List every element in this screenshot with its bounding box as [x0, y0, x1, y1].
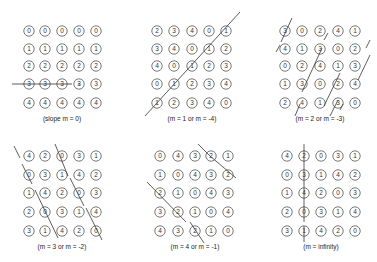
grid-cell: 4 — [57, 98, 67, 108]
svg-text:0: 0 — [77, 27, 81, 34]
svg-text:3: 3 — [60, 208, 64, 215]
grid-cell: 4 — [350, 79, 360, 89]
svg-text:2: 2 — [353, 45, 357, 52]
caption-slope-infinity: (m = infinity) — [303, 243, 339, 250]
svg-text:4: 4 — [43, 189, 47, 196]
svg-text:1: 1 — [336, 62, 340, 69]
grid-cell: 4 — [40, 188, 50, 198]
grid-cell: 4 — [57, 226, 67, 236]
grid-cell: 2 — [91, 170, 101, 180]
svg-text:3: 3 — [226, 189, 230, 196]
grid-cell: 0 — [350, 98, 360, 108]
svg-text:3: 3 — [172, 27, 176, 34]
svg-text:3: 3 — [209, 171, 213, 178]
grid-cell: 4 — [91, 98, 101, 108]
svg-text:2: 2 — [285, 208, 289, 215]
grid-cell: 2 — [24, 61, 34, 71]
svg-text:2: 2 — [319, 189, 323, 196]
grid-cell: 0 — [74, 26, 84, 36]
grid-cell: 2 — [173, 207, 183, 217]
svg-text:4: 4 — [283, 45, 287, 52]
grid-cell: 4 — [24, 151, 34, 161]
svg-text:4: 4 — [94, 99, 98, 106]
grid-cell: 2 — [40, 61, 50, 71]
svg-text:2: 2 — [60, 62, 64, 69]
svg-text:2: 2 — [336, 80, 340, 87]
svg-text:1: 1 — [77, 208, 81, 215]
svg-text:1: 1 — [209, 227, 213, 234]
svg-text:4: 4 — [336, 27, 340, 34]
svg-text:4: 4 — [60, 99, 64, 106]
slope-line — [70, 178, 84, 206]
grid-cell: 1 — [350, 26, 360, 36]
grid-cell: 0 — [187, 44, 197, 54]
slope-line — [340, 104, 343, 110]
svg-text:2: 2 — [155, 27, 159, 34]
grid-cell: 3 — [280, 26, 290, 36]
svg-text:1: 1 — [60, 45, 64, 52]
grid-cell: 1 — [40, 226, 50, 236]
grid-cell: 3 — [40, 170, 50, 180]
grid-cell: 0 — [91, 26, 101, 36]
grid-cell: 1 — [187, 61, 197, 71]
grid-cell: 0 — [350, 226, 360, 236]
grid-cell: 4 — [297, 98, 307, 108]
grid-cell: 0 — [280, 61, 290, 71]
grid-cell: 2 — [91, 61, 101, 71]
svg-text:0: 0 — [318, 80, 322, 87]
grid-cell: 0 — [333, 188, 343, 198]
grid-cell: 1 — [24, 44, 34, 54]
grid-cell: 3 — [187, 98, 197, 108]
svg-text:3: 3 — [193, 152, 197, 159]
grid-cell: 2 — [333, 226, 343, 236]
slope-line — [276, 45, 280, 52]
svg-text:2: 2 — [77, 62, 81, 69]
svg-text:0: 0 — [353, 99, 357, 106]
svg-text:4: 4 — [155, 62, 159, 69]
grid-cell: 0 — [173, 170, 183, 180]
grid-cell: 1 — [280, 79, 290, 89]
svg-text:3: 3 — [207, 80, 211, 87]
grid-cell: 4 — [74, 98, 84, 108]
slope-line — [14, 146, 20, 158]
svg-text:3: 3 — [285, 227, 289, 234]
grid-cell: 3 — [24, 226, 34, 236]
svg-text:2: 2 — [43, 62, 47, 69]
grid-cell: 2 — [74, 61, 84, 71]
grid-cell: 0 — [155, 151, 165, 161]
svg-text:0: 0 — [172, 62, 176, 69]
grid-cell: 2 — [57, 188, 67, 198]
svg-text:2: 2 — [336, 227, 340, 234]
svg-text:1: 1 — [94, 45, 98, 52]
svg-text:4: 4 — [27, 152, 31, 159]
grid-cell: 3 — [57, 207, 67, 217]
grid-cell: 1 — [206, 226, 216, 236]
svg-text:3: 3 — [190, 99, 194, 106]
svg-text:1: 1 — [207, 45, 211, 52]
grid-cell: 1 — [91, 151, 101, 161]
grid-cell: 3 — [74, 151, 84, 161]
grid-cell: 1 — [173, 188, 183, 198]
svg-text:4: 4 — [172, 45, 176, 52]
svg-text:4: 4 — [318, 62, 322, 69]
grid-cell: 0 — [24, 26, 34, 36]
grid-cell: 3 — [221, 61, 231, 71]
svg-text:4: 4 — [190, 27, 194, 34]
svg-text:0: 0 — [319, 152, 323, 159]
grid-cell: 3 — [350, 188, 360, 198]
svg-text:1: 1 — [193, 208, 197, 215]
grid-cell: 0 — [206, 207, 216, 217]
grid-cell: 3 — [204, 79, 214, 89]
grid-cell: 2 — [40, 151, 50, 161]
svg-text:1: 1 — [353, 152, 357, 159]
svg-text:0: 0 — [285, 171, 289, 178]
grid-cell: 3 — [223, 188, 233, 198]
svg-text:4: 4 — [300, 99, 304, 106]
svg-text:4: 4 — [336, 171, 340, 178]
slope-line — [190, 222, 204, 243]
svg-text:1: 1 — [43, 227, 47, 234]
grid-cell: 0 — [223, 226, 233, 236]
svg-text:4: 4 — [94, 208, 98, 215]
svg-text:3: 3 — [336, 152, 340, 159]
svg-text:1: 1 — [158, 171, 162, 178]
